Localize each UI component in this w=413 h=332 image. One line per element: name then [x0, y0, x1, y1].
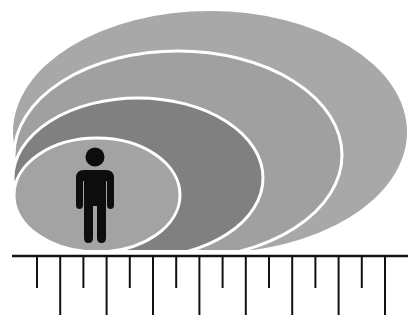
- timeline-axis: [12, 256, 408, 315]
- layers-group: [13, 11, 407, 259]
- timeline-ticks: [37, 256, 385, 315]
- person-head: [86, 148, 105, 167]
- ecological-layers-diagram: [0, 0, 413, 332]
